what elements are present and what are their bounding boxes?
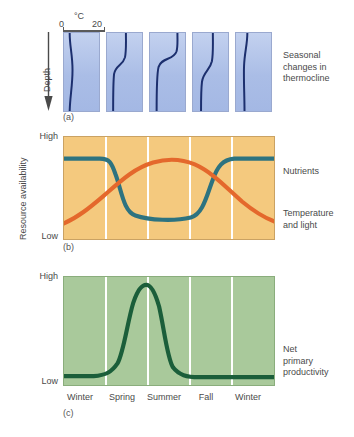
panel-c-high-tick: High	[22, 271, 58, 281]
panel-b-plot-area	[63, 136, 275, 240]
panel-c-curve	[64, 277, 274, 385]
temp-scale-max-label: 20	[92, 19, 102, 29]
temperature-series-label: Temperature and light	[283, 208, 334, 231]
panel-a-side-label: Seasonal changes in thermocline	[283, 50, 330, 85]
panel-c-side-label: Net primary productivity	[283, 344, 329, 379]
thermocline-panel-summer	[149, 32, 186, 112]
panel-a-side-label-line1: Seasonal	[283, 50, 330, 62]
panel-b-tag: (b)	[63, 242, 74, 252]
panel-c-tag: (c)	[63, 408, 74, 418]
panel-c-side-label-line1: Net	[283, 344, 329, 356]
panel-c-side-label-line3: productivity	[283, 367, 329, 379]
thermocline-panel-winter-early	[63, 32, 100, 112]
season-label-winter-2: Winter	[223, 392, 273, 402]
panel-b-curves	[64, 137, 274, 239]
thermocline-panel-winter-late	[235, 32, 272, 112]
panel-c-low-tick: Low	[22, 376, 58, 386]
nutrients-series-label: Nutrients	[283, 166, 319, 178]
panel-a-thermocline: 0 °C 20 Depth	[0, 0, 354, 118]
thermocline-panel-fall	[192, 32, 229, 112]
depth-arrow-icon	[44, 32, 53, 112]
panel-c-side-label-line2: primary	[283, 356, 329, 368]
temperature-series-label-line1: Temperature	[283, 208, 334, 220]
panel-a-side-label-line3: thermocline	[283, 73, 330, 85]
panel-c-net-primary-productivity: High Low Net primary productivity Winter…	[0, 258, 354, 437]
panel-c-plot-area	[63, 276, 275, 386]
panel-a-side-label-line2: changes in	[283, 62, 330, 74]
panel-b-high-tick: High	[22, 131, 58, 141]
panel-b-y-axis-label: Resource availability	[18, 157, 28, 240]
temp-unit-label: °C	[74, 11, 84, 21]
seasonal-lake-figure: 0 °C 20 Depth	[0, 0, 354, 437]
thermocline-panel-spring	[106, 32, 143, 112]
temperature-series-label-line2: and light	[283, 220, 334, 232]
panel-b-resource-availability: High Low Resource availability Nutrients…	[0, 118, 354, 258]
